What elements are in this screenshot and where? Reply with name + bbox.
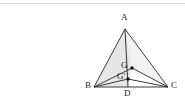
geometry-figure: A B C D G G' <box>0 0 185 107</box>
label-point-A: A <box>121 13 128 22</box>
label-point-C: C <box>171 81 177 90</box>
point-G-marker <box>130 66 133 69</box>
label-point-D: D <box>124 89 131 98</box>
label-point-B: B <box>85 81 91 90</box>
label-point-G-prime: G' <box>117 72 125 81</box>
label-point-G: G <box>121 61 128 70</box>
geometry-canvas <box>0 0 185 107</box>
point-Gprime-marker <box>126 77 129 80</box>
